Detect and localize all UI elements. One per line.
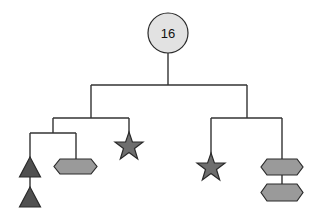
root-label: 16 [161,26,175,41]
triangle-top [20,157,41,177]
root-node: 16 [148,13,188,53]
star-left [115,132,143,159]
star-right [197,153,225,180]
mobile-diagram: 16 [0,0,318,217]
hexagon-right-top [261,159,303,175]
triangle-bottom [20,187,41,207]
hexagon-right-bottom [261,184,303,201]
hexagon-left [54,159,97,174]
